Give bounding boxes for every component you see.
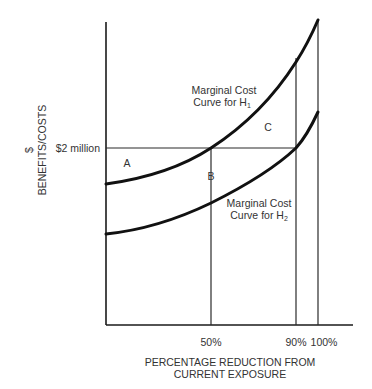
h1-label-line1: Marginal Cost <box>192 84 257 96</box>
x-tick-90: 90% <box>285 336 306 348</box>
h2-label-line1: Marginal Cost <box>227 197 292 209</box>
h1-label-line2: Curve for H1 <box>193 96 251 109</box>
region-b-label: B <box>207 170 214 182</box>
svg-text:BENEFITS/COSTS: BENEFITS/COSTS <box>36 105 48 195</box>
x-axis-title-line2: CURRENT EXPOSURE <box>174 368 286 380</box>
region-a-label: A <box>123 157 130 169</box>
region-c-label: C <box>264 121 272 133</box>
y-axis-title: BENEFITS/COSTS <box>36 105 48 195</box>
x-axis-title-line1: PERCENTAGE REDUCTION FROM <box>145 356 316 368</box>
y-axis-dollar-label: $ <box>23 147 35 153</box>
y-tick-two-million: $2 million <box>56 142 101 154</box>
x-tick-100: 100% <box>311 336 338 348</box>
chart-canvas: $ BENEFITS/COSTS $2 million 50% 90% 100%… <box>0 0 372 389</box>
x-tick-50: 50% <box>200 336 221 348</box>
h2-label-line2: Curve for H2 <box>230 209 288 222</box>
svg-text:$: $ <box>23 147 35 153</box>
